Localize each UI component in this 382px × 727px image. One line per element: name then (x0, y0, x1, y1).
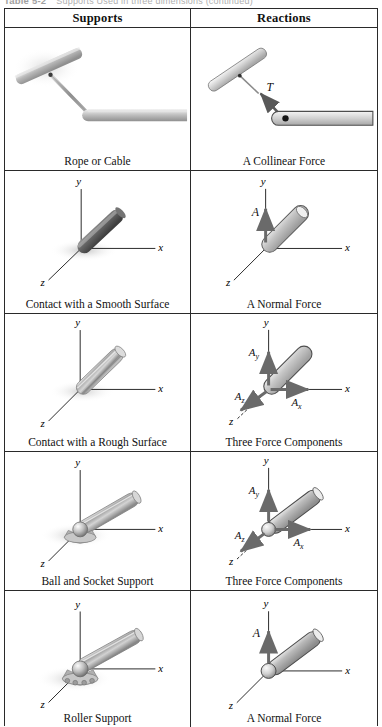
axis-label-y: y (74, 316, 80, 328)
cell-reaction-normal-force: y x z A A Normal Force (191, 171, 377, 313)
axis-label-x: x (344, 522, 350, 534)
table-row: y x z Ball and Socket Support (5, 452, 377, 591)
axis-label-z: z (40, 417, 46, 429)
column-header-supports: Supports (5, 9, 191, 27)
force-label-Az: Az (234, 529, 245, 544)
rough-surface-rod-diagram: y x z (5, 314, 190, 451)
support-label: Contact with a Rough Surface (28, 436, 167, 449)
table-row: Rope or Cable (5, 28, 377, 171)
axis-label-z: z (40, 557, 46, 569)
force-label-Ax: Ax (292, 536, 304, 551)
normal-force-roller-diagram: y x z A (191, 591, 377, 727)
axis-label-z: z (228, 415, 234, 427)
axis-label-y: y (263, 454, 269, 466)
table-caption-text: Supports Used in three dimensions (conti… (56, 0, 253, 6)
axis-label-y: y (74, 598, 80, 610)
table-row: y x z Contact with a Rough Surface (5, 314, 377, 452)
cell-support-roller: y x z Roller Support (5, 591, 191, 727)
axis-label-z: z (228, 699, 234, 711)
force-label-Az: Az (234, 390, 245, 405)
supports-reactions-table: Supports Reactions (4, 8, 378, 726)
table-caption-number: Table 5-2 (4, 0, 46, 6)
force-label-A: A (251, 205, 260, 219)
rope-cable-diagram (5, 28, 190, 170)
force-label-Ax: Ax (290, 396, 302, 411)
force-label-Ay: Ay (248, 484, 260, 499)
cell-support-rough-surface: y x z Contact with a Rough Surface (5, 314, 191, 451)
force-label-T: T (267, 80, 275, 94)
axis-label-z: z (225, 276, 231, 288)
support-label: Roller Support (63, 712, 131, 725)
ball-and-socket-diagram: y x z (5, 452, 190, 590)
axis-label-z: z (40, 698, 46, 710)
cell-reaction-collinear-force: T A Collinear Force (191, 28, 377, 170)
axis-label-y: y (74, 456, 80, 468)
support-label: Ball and Socket Support (41, 575, 153, 588)
reaction-label: Three Force Components (226, 575, 343, 588)
axis-label-x: x (157, 382, 163, 394)
roller-support-diagram: y x z (5, 591, 190, 727)
table-row: y x z Roller Support (5, 591, 377, 727)
axis-label-y: y (75, 175, 81, 187)
axis-label-z: z (40, 276, 46, 288)
reaction-label: Three Force Components (226, 436, 343, 449)
normal-force-diagram: y x z A (191, 171, 377, 313)
cell-support-rope-cable: Rope or Cable (5, 28, 191, 170)
axis-label-x: x (344, 382, 350, 394)
axis-label-x: x (157, 522, 163, 534)
force-label-Ay: Ay (248, 346, 260, 361)
support-label: Rope or Cable (64, 155, 130, 168)
axis-label-x: x (344, 241, 350, 253)
reaction-label: A Normal Force (247, 712, 322, 725)
three-force-components-ball-diagram: y x z Ay Ax Az (191, 452, 377, 590)
collinear-force-diagram: T (191, 28, 377, 170)
cell-reaction-three-force-components-2: y x z Ay Ax Az Three Force Componen (191, 452, 377, 590)
force-label-A: A (252, 626, 261, 640)
table-header-row: Supports Reactions (5, 9, 377, 28)
cell-support-ball-and-socket: y x z Ball and Socket Support (5, 452, 191, 590)
cell-reaction-normal-force-roller: y x z A A Normal Force (191, 591, 377, 727)
axis-label-y: y (260, 175, 266, 187)
cell-support-smooth-surface: y x z Contact with a Smooth Surface (5, 171, 191, 313)
three-force-components-diagram: y x z Ay Ax Az (191, 314, 377, 451)
table-caption: Table 5-2Supports Used in three dimensio… (4, 0, 378, 7)
reaction-label: A Collinear Force (243, 155, 325, 168)
table-row: y x z Contact with a Smooth Surface (5, 171, 377, 314)
smooth-surface-rod-diagram: y x z (5, 171, 190, 313)
cell-reaction-three-force-components-1: y x z Ay Ax Az Three Force Components (191, 314, 377, 451)
axis-label-x: x (157, 241, 163, 253)
reaction-label: A Normal Force (247, 298, 322, 311)
axis-label-x: x (344, 664, 350, 676)
column-header-reactions: Reactions (191, 9, 377, 27)
axis-label-x: x (157, 662, 163, 674)
axis-label-y: y (263, 597, 269, 609)
axis-label-y: y (263, 316, 269, 328)
axis-label-z: z (228, 555, 234, 567)
support-label: Contact with a Smooth Surface (26, 298, 170, 311)
